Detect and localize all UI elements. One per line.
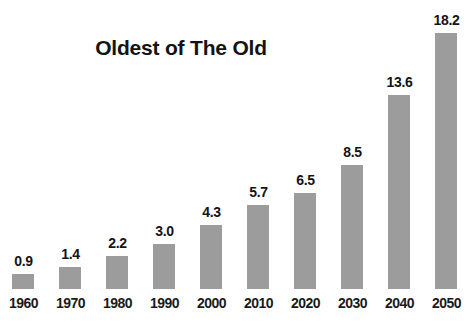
figure-caption <box>2 321 58 329</box>
bar-value-label: 2.2 <box>94 235 141 251</box>
bar-group: 2.2 <box>94 0 141 289</box>
bar <box>294 193 316 289</box>
bar <box>341 165 363 289</box>
bar-group: 18.2 <box>423 0 470 289</box>
bar <box>435 33 457 289</box>
bar-value-label: 8.5 <box>329 144 376 160</box>
bar-group: 4.3 <box>188 0 235 289</box>
bar <box>153 244 175 289</box>
x-tick-label: 2000 <box>188 295 235 311</box>
bar-value-label: 3.0 <box>141 223 188 239</box>
x-tick-label: 1970 <box>47 295 94 311</box>
bar-value-label: 0.9 <box>0 253 47 269</box>
x-tick-label: 1990 <box>141 295 188 311</box>
x-tick-label: 2020 <box>282 295 329 311</box>
bar-value-label: 13.6 <box>376 74 423 90</box>
bar <box>106 256 128 289</box>
bar <box>247 205 269 289</box>
bar-group: 0.9 <box>0 0 47 289</box>
bar-group: 8.5 <box>329 0 376 289</box>
bar-value-label: 5.7 <box>235 184 282 200</box>
x-tick-label: 2010 <box>235 295 282 311</box>
x-axis-tick-labels: 1960 1970 1980 1990 2000 2010 2020 2030 … <box>0 295 474 317</box>
bar <box>59 267 81 289</box>
bar-value-label: 18.2 <box>423 12 470 28</box>
x-tick-label: 1960 <box>0 295 47 311</box>
bar-group: 13.6 <box>376 0 423 289</box>
x-tick-label: 2050 <box>423 295 470 311</box>
bar-group: 3.0 <box>141 0 188 289</box>
x-tick-label: 2040 <box>376 295 423 311</box>
bar-group: 6.5 <box>282 0 329 289</box>
bar-value-label: 1.4 <box>47 246 94 262</box>
bar-chart-figure: Oldest of The Old 0.9 1.4 2.2 3.0 4.3 5.… <box>0 0 474 331</box>
x-tick-label: 2030 <box>329 295 376 311</box>
x-tick-label: 1980 <box>94 295 141 311</box>
bar-group: 5.7 <box>235 0 282 289</box>
bar <box>388 95 410 289</box>
bar <box>200 225 222 289</box>
bar <box>12 274 34 289</box>
bar-value-label: 4.3 <box>188 204 235 220</box>
bar-value-label: 6.5 <box>282 172 329 188</box>
bar-group: 1.4 <box>47 0 94 289</box>
plot-area: 0.9 1.4 2.2 3.0 4.3 5.7 6.5 8.5 <box>0 0 474 289</box>
